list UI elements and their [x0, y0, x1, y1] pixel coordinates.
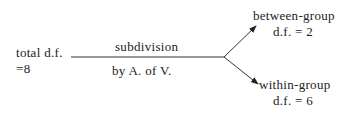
source-label-line2: =8	[16, 61, 30, 76]
source-label-line1: total d.f.	[16, 45, 63, 60]
arrow-up-icon	[224, 26, 256, 57]
edge-label-top: subdivision	[115, 39, 178, 54]
between-group-label: between-group	[253, 8, 335, 23]
df-subdivision-diagram: total d.f. =8 subdivision by A. of V. be…	[0, 0, 350, 117]
arrow-down-icon	[224, 57, 258, 84]
within-group-df: d.f. = 6	[273, 93, 313, 108]
within-group-label: within-group	[259, 77, 330, 92]
edge-label-bottom: by A. of V.	[112, 63, 172, 78]
between-group-df: d.f. = 2	[273, 24, 313, 39]
